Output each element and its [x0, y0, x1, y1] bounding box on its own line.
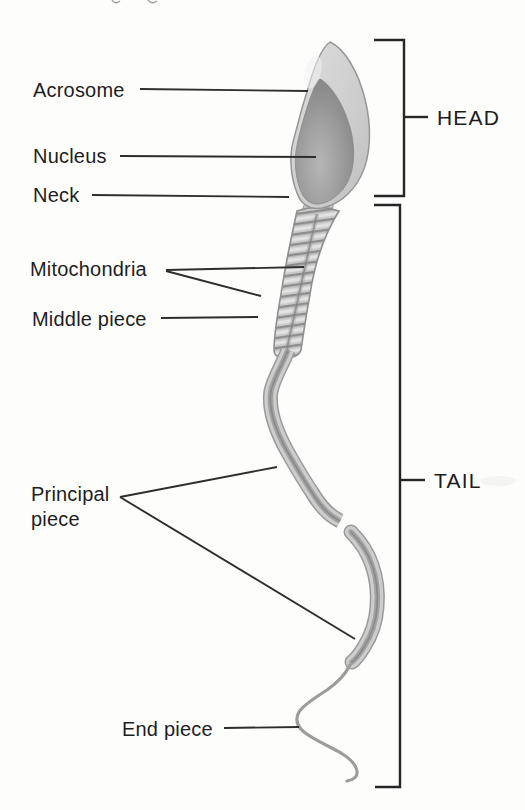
mitochondria-pointer-line-2 — [166, 271, 261, 296]
sperm-middle-piece-shape — [274, 207, 339, 358]
scan-smudge — [480, 476, 516, 486]
principal-piece-pointer-line-2 — [120, 497, 355, 639]
tail-bracket-label: TAIL — [434, 469, 482, 492]
tail-bracket — [374, 205, 425, 787]
sperm-diagram-svg: Acrosome Nucleus Neck Mitochondria Middl… — [0, 0, 525, 810]
nucleus-pointer-line — [120, 156, 316, 157]
middle-piece-pointer-line — [161, 317, 258, 318]
principal-piece-label-line1: Principal — [31, 483, 110, 505]
head-bracket-label: HEAD — [437, 106, 500, 129]
neck-label: Neck — [33, 184, 80, 206]
principal-piece-pointer-line-1 — [120, 467, 277, 497]
acrosome-label: Acrosome — [33, 79, 125, 101]
neck-pointer-line — [92, 195, 289, 197]
sperm-head-shape — [291, 42, 370, 208]
mitochondria-label: Mitochondria — [30, 258, 148, 280]
nucleus-label: Nucleus — [33, 145, 107, 167]
end-piece-pointer-line — [224, 727, 299, 728]
scan-artifact-top — [112, 0, 157, 3]
principal-piece-label-line2: piece — [31, 508, 80, 530]
sperm-illustration — [270, 42, 377, 781]
end-piece-label: End piece — [122, 718, 213, 740]
sperm-principal-piece-upper — [270, 350, 340, 521]
mitochondria-pointer-line-1 — [166, 267, 304, 270]
middle-piece-label: Middle piece — [32, 308, 147, 330]
figure-canvas: Acrosome Nucleus Neck Mitochondria Middl… — [0, 0, 525, 810]
acrosome-pointer-line — [140, 89, 308, 91]
head-bracket — [374, 40, 428, 196]
sperm-principal-piece-lower — [351, 532, 377, 662]
sperm-end-piece-shape — [297, 665, 357, 781]
